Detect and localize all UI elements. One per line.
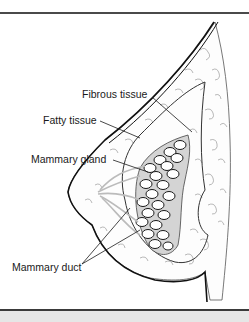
label-mammary-gland: Mammary gland — [31, 153, 106, 165]
bottom-strip — [0, 311, 249, 322]
label-fibrous-tissue: Fibrous tissue — [82, 88, 147, 100]
label-mammary-duct: Mammary duct — [12, 261, 81, 273]
label-fatty-tissue: Fatty tissue — [43, 114, 97, 126]
